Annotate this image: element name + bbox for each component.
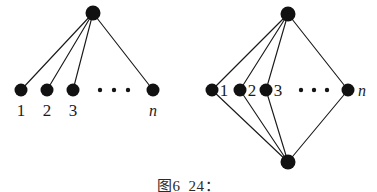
graph-vertex [281,155,296,170]
vertex-label: n [149,102,157,119]
figure-page: 123n 123n 图6_24： [0,0,377,192]
ellipsis-dot [312,88,316,92]
star-graph: 123n [15,6,160,121]
ellipsis-dot [98,88,102,92]
figure-caption: 图6_24： [0,176,377,192]
graph-vertex [234,84,247,97]
graph-vertex [67,84,80,97]
graph-vertex [147,84,160,97]
double-star-graph: 123n [206,7,367,170]
graph-vertex [342,84,355,97]
vertex-label: 1 [220,81,229,100]
graph-edge [21,13,93,90]
graph-edge [288,90,348,162]
graph-edge [73,13,93,90]
ellipsis-dot [112,88,116,92]
vertex-label: 1 [17,101,26,120]
vertex-label: 3 [69,101,78,120]
vertex-label: 2 [248,81,257,100]
graph-vertex [206,84,219,97]
ellipsis-dot [299,88,303,92]
vertex-label: n [358,82,366,99]
graph-edge [288,14,348,90]
graph-vertex [260,84,273,97]
graph-vertex [281,7,296,22]
ellipsis-dot [325,88,329,92]
vertex-label: 2 [43,101,52,120]
graph-edge [47,13,93,90]
graph-vertex [15,84,28,97]
graph-edge [240,90,288,162]
vertex-label: 3 [274,81,283,100]
graph-figure-canvas: 123n 123n [0,0,377,192]
graph-vertex [86,6,101,21]
ellipsis-dot [126,88,130,92]
graph-vertex [41,84,54,97]
graph-edge [240,14,288,90]
graph-edge [93,13,153,90]
